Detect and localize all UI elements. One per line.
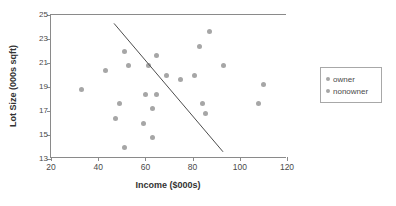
legend: owner nonowner xyxy=(320,67,382,103)
x-tick-label: 120 xyxy=(280,162,294,173)
x-tick-label: 60 xyxy=(141,162,150,173)
legend-item-nonowner: nonowner xyxy=(326,85,377,97)
x-tick-label: 80 xyxy=(188,162,197,173)
y-tick-label: 17 xyxy=(39,105,48,116)
separating-line xyxy=(114,23,223,151)
x-tick-label: 40 xyxy=(93,162,102,173)
legend-marker-icon xyxy=(326,89,330,93)
legend-label: nonowner xyxy=(333,86,368,97)
plot-area: 13151719212325 20406080100120 xyxy=(50,14,286,158)
x-tick-label: 100 xyxy=(233,162,247,173)
x-axis-title: Income ($000s) xyxy=(50,180,286,190)
y-tick-label: 25 xyxy=(39,9,48,20)
x-tick-label: 20 xyxy=(46,162,55,173)
scatter-chart-figure: 13151719212325 20406080100120 Income ($0… xyxy=(0,0,396,206)
y-tick-label: 15 xyxy=(39,129,48,140)
y-tick-label: 23 xyxy=(39,33,48,44)
legend-label: owner xyxy=(333,74,355,85)
separating-line xyxy=(51,15,287,159)
x-tick-mark xyxy=(287,157,288,161)
y-tick-label: 21 xyxy=(39,57,48,68)
y-tick-label: 19 xyxy=(39,81,48,92)
legend-marker-icon xyxy=(326,77,330,81)
legend-item-owner: owner xyxy=(326,73,377,85)
y-axis-title: Lot Size (000s sqft) xyxy=(8,14,20,158)
